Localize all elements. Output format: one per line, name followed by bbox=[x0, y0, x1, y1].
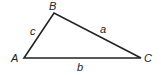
vertex-label-c: C bbox=[144, 52, 152, 64]
vertex-label-b: B bbox=[49, 0, 56, 12]
triangle-diagram: B A C c a b bbox=[0, 0, 161, 75]
side-label-c: c bbox=[30, 25, 36, 37]
side-label-a: a bbox=[100, 23, 106, 35]
triangle-abc bbox=[24, 13, 141, 58]
side-label-b: b bbox=[77, 61, 83, 73]
vertex-label-a: A bbox=[10, 52, 18, 64]
